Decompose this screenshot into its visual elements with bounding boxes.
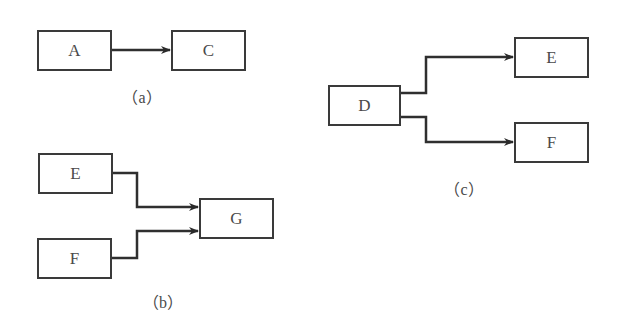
node-label: F: [70, 249, 79, 269]
edge-d-to-f: [400, 117, 513, 142]
node-label: C: [203, 41, 214, 61]
node-label: E: [70, 164, 80, 184]
node-c: C: [171, 30, 246, 71]
edge-e-to-g: [112, 173, 198, 207]
node-label: F: [547, 133, 556, 153]
node-label: G: [230, 209, 242, 229]
edge-d-to-e: [400, 57, 513, 93]
caption-c: （c）: [434, 176, 494, 200]
edge-f-to-g: [111, 231, 198, 258]
node-f-c: F: [514, 122, 589, 163]
caption-b: （b）: [133, 289, 193, 313]
node-f-b: F: [37, 238, 112, 279]
node-label: A: [68, 41, 80, 61]
node-label: E: [546, 48, 556, 68]
node-a: A: [37, 30, 112, 71]
node-e-c: E: [514, 37, 589, 78]
node-e-b: E: [38, 153, 113, 194]
node-d: D: [328, 85, 401, 126]
node-label: D: [358, 96, 370, 116]
caption-a: （a）: [112, 84, 172, 108]
node-g: G: [199, 198, 274, 239]
